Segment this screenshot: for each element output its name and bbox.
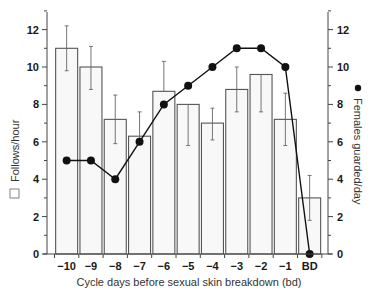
x-tick-label: −9 xyxy=(85,260,98,272)
line-point xyxy=(87,157,95,165)
x-axis-ticks: −10−9−8−7−6−5−4−3−2−1BD xyxy=(55,254,322,272)
bar xyxy=(56,48,78,254)
x-tick-label: −2 xyxy=(255,260,268,272)
line-point xyxy=(233,44,241,52)
line-point xyxy=(63,157,71,165)
left-y-axis-title: Follows/hour xyxy=(9,119,21,182)
line-point xyxy=(160,100,168,108)
x-tick-label: −7 xyxy=(133,260,146,272)
left-y-tick-label: 12 xyxy=(27,24,39,36)
x-tick-label: −6 xyxy=(158,260,171,272)
right-y-tick-label: 2 xyxy=(337,211,343,223)
line-point xyxy=(111,175,119,183)
left-y-tick-label: 4 xyxy=(33,173,40,185)
left-y-tick-label: 10 xyxy=(27,61,39,73)
line-point xyxy=(184,82,192,90)
left-y-tick-label: 8 xyxy=(33,98,39,110)
x-tick-label: −1 xyxy=(279,260,292,272)
left-y-axis-ticks: 024681012 xyxy=(27,11,47,260)
x-tick-label: −4 xyxy=(206,260,219,272)
bar xyxy=(201,123,223,254)
line-point xyxy=(136,138,144,146)
line-point xyxy=(281,63,289,71)
x-tick-label: −5 xyxy=(182,260,195,272)
open-square-legend-icon xyxy=(10,189,19,198)
right-y-tick-label: 0 xyxy=(337,248,343,260)
x-tick-label: −10 xyxy=(57,260,76,272)
left-y-tick-label: 6 xyxy=(33,136,39,148)
right-y-tick-label: 8 xyxy=(337,98,343,110)
x-tick-label: −3 xyxy=(230,260,243,272)
left-y-tick-label: 2 xyxy=(33,211,39,223)
right-y-axis-title-group: Females guarded/day xyxy=(352,85,364,205)
x-axis-title: Cycle days before sexual skin breakdown … xyxy=(76,276,301,288)
left-y-axis-title-group: Follows/hour xyxy=(9,119,21,198)
line-point xyxy=(208,63,216,71)
chart: −10−9−8−7−6−5−4−3−2−1BD 024681012 024681… xyxy=(0,0,371,293)
filled-circle-legend-icon xyxy=(355,85,361,91)
right-y-tick-label: 10 xyxy=(337,61,349,73)
bar-series-follows-per-hour xyxy=(56,48,321,254)
line-point xyxy=(257,44,265,52)
right-y-tick-label: 12 xyxy=(337,24,349,36)
x-tick-label: BD xyxy=(302,260,318,272)
bar xyxy=(226,89,248,254)
left-y-tick-label: 0 xyxy=(33,248,39,260)
right-y-tick-label: 6 xyxy=(337,136,343,148)
right-y-axis-title: Females guarded/day xyxy=(352,98,364,205)
x-tick-label: −8 xyxy=(109,260,122,272)
right-y-axis-ticks: 024681012 xyxy=(328,11,349,260)
right-y-tick-label: 4 xyxy=(337,173,344,185)
